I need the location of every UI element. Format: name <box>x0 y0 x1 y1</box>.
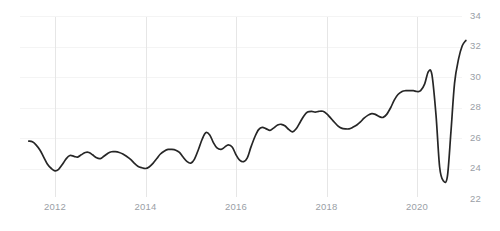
y-axis-tick-labels: 22242628303234 <box>470 10 481 204</box>
x-axis-tick-labels: 20122014201620182020 <box>44 201 428 212</box>
series-group <box>29 40 466 182</box>
x-axis-tick-label: 2016 <box>225 201 247 212</box>
x-axis-tick-label: 2020 <box>406 201 428 212</box>
y-axis-tick-label: 26 <box>470 132 481 143</box>
data-series-line <box>29 40 466 182</box>
line-chart: 22242628303234 20122014201620182020 <box>0 0 500 231</box>
x-axis-tick-label: 2018 <box>316 201 338 212</box>
y-axis-tick-label: 34 <box>470 10 481 21</box>
y-axis-tick-label: 32 <box>470 40 481 51</box>
x-axis-tick-label: 2014 <box>135 201 157 212</box>
y-axis-tick-label: 22 <box>470 193 481 204</box>
horizontal-gridlines <box>20 17 462 170</box>
y-axis-tick-label: 24 <box>470 162 481 173</box>
x-axis-tick-label: 2012 <box>44 201 66 212</box>
chart-container: 22242628303234 20122014201620182020 <box>0 0 500 231</box>
y-axis-tick-label: 28 <box>470 101 481 112</box>
y-axis-tick-label: 30 <box>470 71 481 82</box>
